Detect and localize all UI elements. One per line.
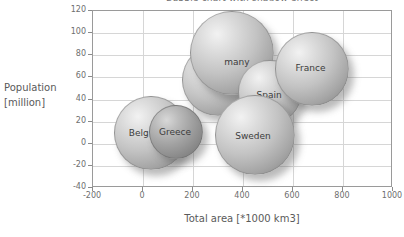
chart-title: Bubble chart with shadow effect (92, 0, 392, 1)
x-axis-tick-label: 1000 (372, 192, 404, 200)
y-axis-tick-label: 0 (60, 139, 86, 147)
bubble-label-greece: Greece (159, 128, 191, 137)
gridline-vertical (343, 11, 344, 186)
y-axis-tick-label: 80 (60, 50, 86, 58)
y-axis-tick-label: 20 (60, 117, 86, 125)
x-axis-tick-mark (242, 187, 243, 191)
y-axis-tick-label: 40 (60, 95, 86, 103)
y-axis-tick-mark (88, 10, 92, 11)
x-axis-title: Total area [*1000 km3] (92, 213, 392, 224)
bubble-label-sweden: Sweden (235, 132, 271, 141)
bubble-chart: Bubble chart with shadow effect BelgGree… (0, 0, 404, 237)
bubble-label-france: France (296, 64, 326, 73)
y-axis-tick-label: 60 (60, 72, 86, 80)
x-axis-tick-label: 800 (322, 192, 362, 200)
y-axis-tick-mark (88, 143, 92, 144)
y-axis-tick-mark (88, 99, 92, 100)
y-axis-tick-mark (88, 32, 92, 33)
y-axis-title-line-1: Population (4, 80, 84, 95)
y-axis-tick-label: -20 (60, 161, 86, 169)
y-axis-tick-label: -40 (60, 183, 86, 191)
y-axis-tick-mark (88, 165, 92, 166)
x-axis-tick-label: 0 (122, 192, 162, 200)
y-axis-tick-mark (88, 121, 92, 122)
y-axis-tick-label: 100 (60, 28, 86, 36)
x-axis-tick-label: -200 (72, 192, 112, 200)
x-axis-tick-label: 400 (222, 192, 262, 200)
x-axis-tick-mark (392, 187, 393, 191)
x-axis-tick-label: 200 (172, 192, 212, 200)
bubble-label-germany: many (224, 58, 249, 67)
y-axis-tick-label: 120 (60, 6, 86, 14)
x-axis-tick-mark (192, 187, 193, 191)
x-axis-tick-mark (92, 187, 93, 191)
bubble-label-belgium: Belg (129, 129, 149, 138)
x-axis-tick-label: 600 (272, 192, 312, 200)
plot-area: BelgGreeceItalymanySpainFranceSweden (92, 10, 392, 187)
x-axis-tick-mark (292, 187, 293, 191)
x-axis-tick-mark (142, 187, 143, 191)
y-axis-tick-mark (88, 76, 92, 77)
x-axis-tick-mark (342, 187, 343, 191)
y-axis-tick-mark (88, 54, 92, 55)
